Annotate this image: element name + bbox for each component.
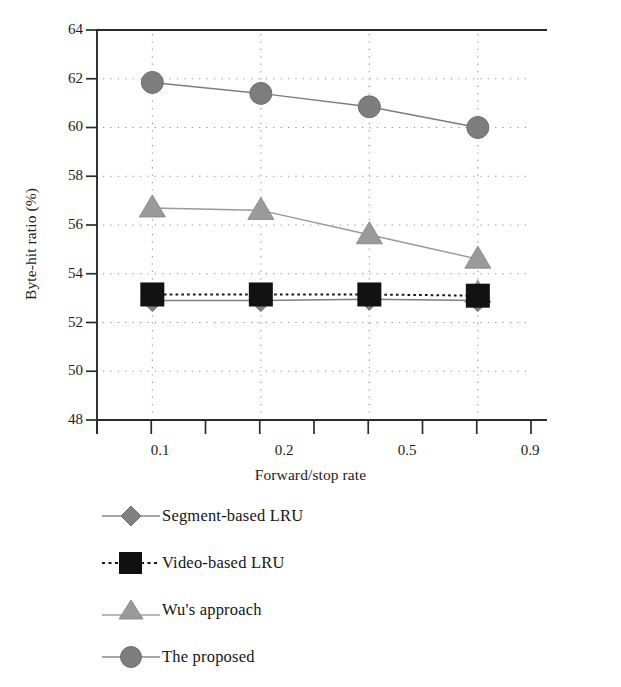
data-point [140, 282, 164, 306]
data-point [250, 82, 272, 104]
data-point [139, 195, 165, 217]
chart-figure: Byte-hit ratio (%) 64 62 60 58 56 54 52 … [0, 0, 621, 687]
data-point [466, 284, 490, 308]
legend-label: Wu's approach [162, 600, 262, 620]
square-icon [100, 548, 162, 578]
legend-item-segment-based-lru[interactable]: Segment-based LRU [100, 492, 520, 539]
data-point [141, 71, 163, 93]
triangle-icon [100, 595, 162, 625]
legend-label: Segment-based LRU [162, 506, 303, 526]
plot-area [0, 0, 621, 470]
chart-legend: Segment-based LRU Video-based LRU Wu's a… [100, 492, 520, 680]
circle-icon [100, 642, 162, 672]
diamond-icon [100, 501, 162, 531]
data-point [249, 282, 273, 306]
legend-item-the-proposed[interactable]: The proposed [100, 633, 520, 680]
data-point [358, 96, 380, 118]
legend-item-wus-approach[interactable]: Wu's approach [100, 586, 520, 633]
data-point [467, 117, 489, 139]
data-point [357, 282, 381, 306]
legend-label: The proposed [162, 647, 255, 667]
data-point [248, 197, 274, 219]
legend-item-video-based-lru[interactable]: Video-based LRU [100, 539, 520, 586]
legend-label: Video-based LRU [162, 553, 285, 573]
